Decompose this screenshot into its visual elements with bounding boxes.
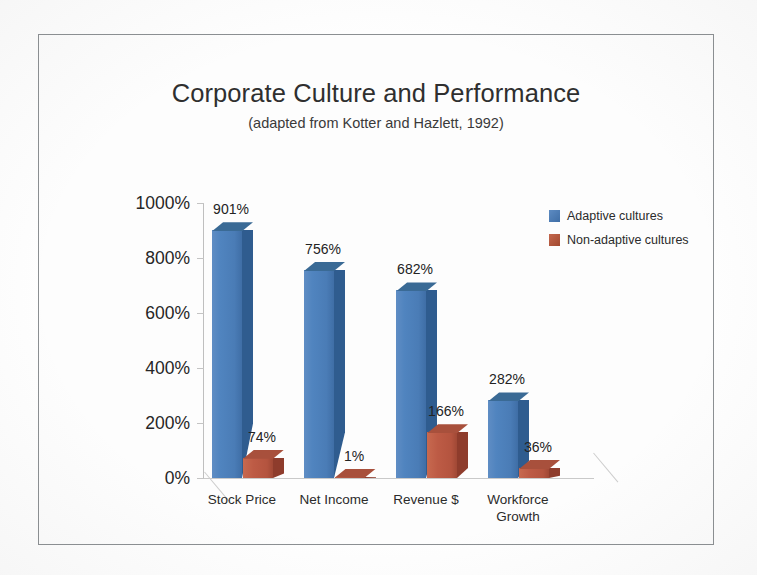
axis-tick [197,423,204,424]
category-axis-line [204,478,594,479]
legend-label: Non-adaptive cultures [567,233,689,247]
legend-item[interactable]: Adaptive cultures [549,205,689,226]
bar-front-face [304,270,334,478]
data-label: 36% [524,439,552,455]
value-axis-label: 600% [145,303,190,324]
axis-tick [197,313,204,314]
legend-item[interactable]: Non-adaptive cultures [549,229,689,250]
data-label: 682% [397,261,433,277]
value-axis-label: 400% [145,358,190,379]
chart-title: Corporate Culture and Performance [39,79,713,108]
legend-swatch [549,210,560,222]
legend-swatch [549,234,560,246]
data-label: 166% [428,403,464,419]
bar-side-face [549,468,560,478]
floor-depth-line-right [593,453,618,483]
chart-subtitle: (adapted from Kotter and Hazlett, 1992) [39,115,713,131]
value-axis-line [203,203,204,478]
bar-revenue--non-adaptive-cultures[interactable] [427,432,457,478]
bar-workforce-growth-non-adaptive-cultures[interactable] [519,468,549,478]
bar-net-income-adaptive-cultures[interactable] [304,270,334,478]
bar-front-face [243,458,273,478]
bar-front-face [212,230,242,478]
value-axis-label: 1000% [136,193,191,214]
axis-tick [197,368,204,369]
chart-frame: Corporate Culture and Performance (adapt… [38,34,714,545]
legend-label: Adaptive cultures [567,209,663,223]
bar-net-income-non-adaptive-cultures[interactable] [335,477,365,479]
bar-stock-price-non-adaptive-cultures[interactable] [243,458,273,478]
data-label: 282% [489,371,525,387]
bar-front-face [488,400,518,478]
bar-top-face [335,469,376,478]
value-axis-label: 200% [145,413,190,434]
data-label: 901% [213,201,249,217]
plot-area: 1000%800%600%400%200%0% 901%74%756%1%682… [204,203,604,478]
data-label: 1% [344,448,364,464]
chart-legend: Adaptive culturesNon-adaptive cultures [549,205,689,253]
data-label: 756% [305,241,341,257]
value-axis-label: 0% [165,468,190,489]
category-label: WorkforceGrowth [463,491,573,526]
bar-side-face [457,432,468,478]
axis-tick [197,478,204,479]
bar-side-face [273,458,284,478]
value-axis-label: 800% [145,248,190,269]
scanned-page: Corporate Culture and Performance (adapt… [0,0,757,575]
axis-tick [197,203,204,204]
bar-front-face [396,290,426,478]
bar-revenue--adaptive-cultures[interactable] [396,290,426,478]
bar-front-face [519,468,549,478]
bar-workforce-growth-adaptive-cultures[interactable] [488,400,518,478]
axis-tick [197,258,204,259]
data-label: 74% [248,429,276,445]
bar-stock-price-adaptive-cultures[interactable] [212,230,242,478]
bar-front-face [427,432,457,478]
